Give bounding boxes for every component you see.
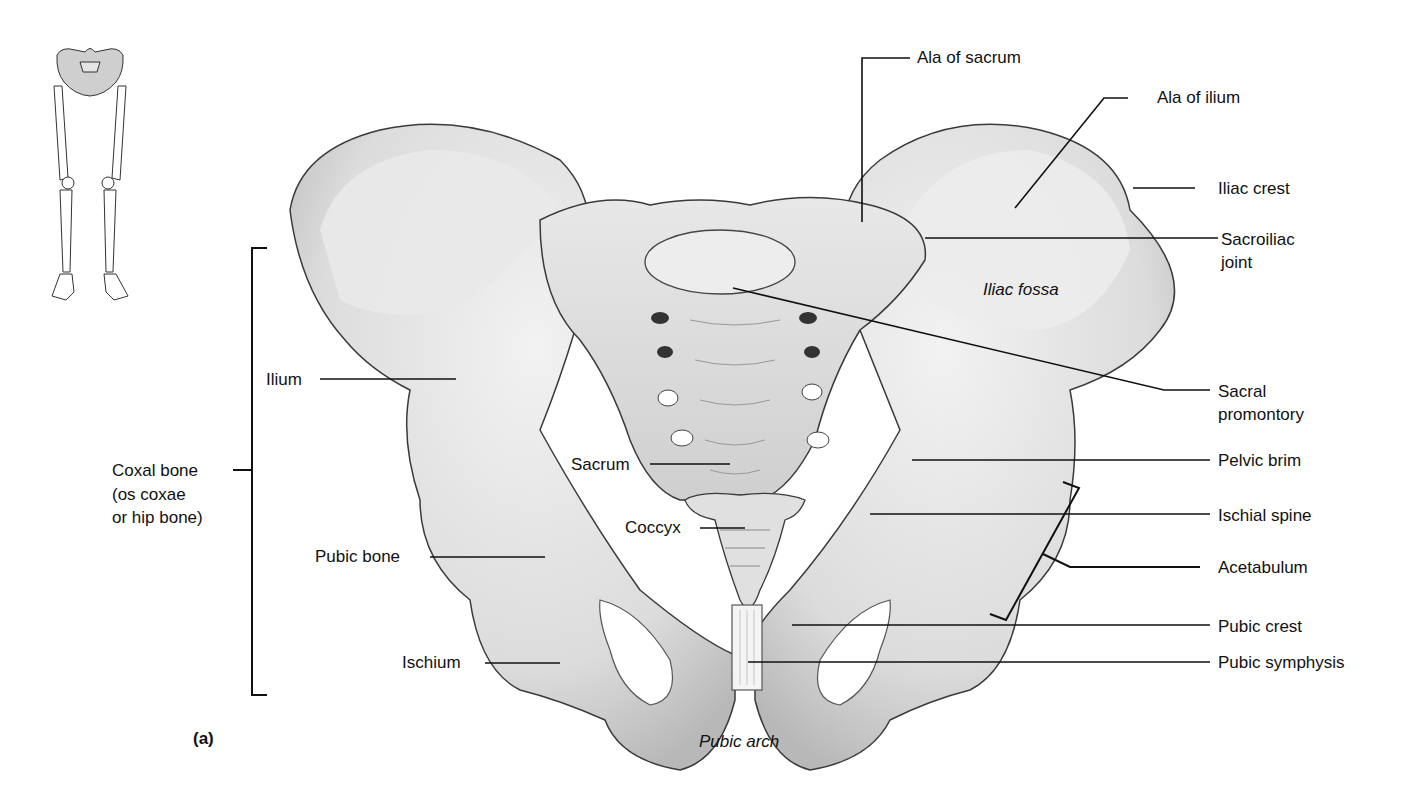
label-sacroiliac-line2: joint [1221, 252, 1252, 273]
label-coxal-bone-line2: (os coxae [112, 484, 186, 505]
label-coccyx: Coccyx [625, 517, 681, 538]
label-iliac-fossa: Iliac fossa [983, 279, 1059, 300]
pelvis-illustration [0, 0, 1422, 806]
label-ischial-spine: Ischial spine [1218, 505, 1312, 526]
label-pubic-symphysis: Pubic symphysis [1218, 652, 1345, 673]
label-sacrum: Sacrum [571, 454, 630, 475]
label-pubic-crest: Pubic crest [1218, 616, 1302, 637]
label-coxal-bone-line1: Coxal bone [112, 460, 198, 481]
label-ala-of-sacrum: Ala of sacrum [917, 47, 1021, 68]
label-ischium: Ischium [402, 652, 461, 673]
coxal-bone-bracket [233, 248, 267, 695]
label-sacral-promontory-line2: promontory [1218, 404, 1304, 425]
label-sacral-promontory-line1: Sacral [1218, 381, 1266, 402]
label-ilium: Ilium [266, 369, 302, 390]
label-ala-of-ilium: Ala of ilium [1157, 87, 1240, 108]
label-sacroiliac-line1: Sacroiliac [1221, 229, 1295, 250]
thumbnail-skeleton-icon [52, 49, 128, 301]
coccyx-shape [685, 493, 805, 608]
label-coxal-bone-line3: or hip bone) [112, 507, 203, 528]
label-pubic-bone: Pubic bone [315, 546, 400, 567]
panel-label: (a) [193, 728, 214, 749]
label-pubic-arch: Pubic arch [699, 731, 779, 752]
pelvis-diagram: Coxal bone (os coxae or hip bone) Ilium … [0, 0, 1422, 806]
label-acetabulum: Acetabulum [1218, 557, 1308, 578]
label-iliac-crest: Iliac crest [1218, 178, 1290, 199]
label-pelvic-brim: Pelvic brim [1218, 450, 1301, 471]
